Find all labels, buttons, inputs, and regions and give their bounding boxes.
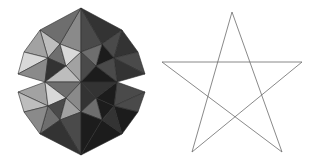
stellated-polyhedron-figure (0, 0, 160, 167)
pentagram-figure (160, 0, 320, 167)
pentagram-svg (160, 0, 320, 167)
polyhedron-svg (0, 0, 160, 167)
pentagram-outline (162, 12, 302, 152)
polyhedron-face-group (18, 8, 145, 155)
figure-canvas (0, 0, 320, 167)
